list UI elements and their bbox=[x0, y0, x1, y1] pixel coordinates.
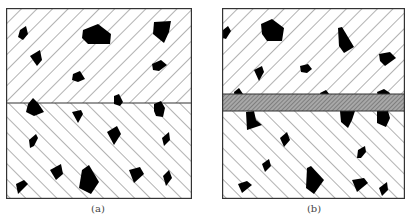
panel-b bbox=[222, 8, 405, 199]
panel-a-diagram bbox=[6, 8, 192, 199]
panel-b-diagram bbox=[222, 8, 405, 199]
upper-layer bbox=[222, 8, 405, 94]
lower-layer bbox=[6, 103, 192, 199]
interlayer-band bbox=[222, 94, 405, 111]
panel-b-caption: (b) bbox=[294, 203, 334, 214]
panel-a-caption: (a) bbox=[78, 203, 118, 214]
panel-a bbox=[6, 8, 192, 199]
